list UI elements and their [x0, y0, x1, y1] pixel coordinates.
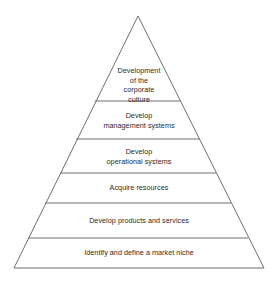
level-1-line-1: Development — [118, 66, 161, 76]
level-3-line-1: Develop — [107, 147, 172, 157]
level-1-line-3: corporate — [118, 85, 161, 95]
level-1-label: Development of the corporate culture — [118, 66, 161, 104]
level-6-line-1: Identify and define a market niche — [84, 248, 194, 258]
level-5-line-1: Develop products and services — [89, 216, 189, 226]
pyramid-triangle — [14, 16, 264, 268]
level-2-line-2: management systems — [103, 121, 174, 131]
level-3-label: Develop operational systems — [107, 147, 172, 166]
level-2-line-1: Develop — [103, 111, 174, 121]
level-4-label: Acquire resources — [110, 183, 169, 193]
level-2-label: Develop management systems — [103, 111, 174, 130]
level-3-line-2: operational systems — [107, 157, 172, 167]
level-6-label: Identify and define a market niche — [84, 248, 194, 258]
level-5-label: Develop products and services — [89, 216, 189, 226]
level-4-line-1: Acquire resources — [110, 183, 169, 193]
level-1-line-4: culture — [118, 95, 161, 105]
pyramid-outline — [0, 0, 278, 283]
level-1-line-2: of the — [118, 76, 161, 86]
